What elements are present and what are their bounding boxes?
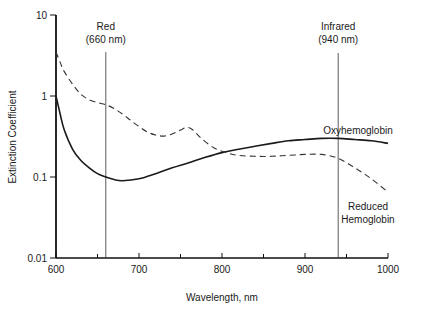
y-axis-label: Extinction Coefficient xyxy=(7,90,18,183)
reference-lines: Red(660 nm)Infrared(940 nm) xyxy=(86,21,358,258)
x-tick-label: 1000 xyxy=(377,264,400,275)
y-tick-label: 10 xyxy=(36,10,48,21)
x-tick-label: 700 xyxy=(131,264,148,275)
y-tick-label: 0.01 xyxy=(28,253,48,264)
reference-sublabel-red: (660 nm) xyxy=(86,34,126,45)
x-ticks: 6007008009001000 xyxy=(48,253,400,275)
reference-sublabel-infrared: (940 nm) xyxy=(318,34,358,45)
reference-label-infrared: Infrared xyxy=(321,21,355,32)
x-axis-label: Wavelength, nm xyxy=(186,292,258,303)
x-tick-label: 600 xyxy=(48,264,65,275)
series-label-reduced-hemoglobin: Hemoglobin xyxy=(341,214,394,225)
x-tick-label: 900 xyxy=(297,264,314,275)
y-ticks: 1010.10.01 xyxy=(28,10,56,264)
series-label-reduced-hemoglobin: Reduced xyxy=(348,201,388,212)
x-tick-label: 800 xyxy=(214,264,231,275)
series-label-oxyhemoglobin: Oxyhemoglobin xyxy=(323,125,392,136)
reference-label-red: Red xyxy=(97,21,115,32)
y-tick-label: 1 xyxy=(41,91,47,102)
y-tick-label: 0.1 xyxy=(33,172,47,183)
extinction-chart: 6007008009001000 1010.10.01 Red(660 nm)I… xyxy=(0,0,422,315)
